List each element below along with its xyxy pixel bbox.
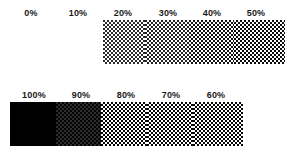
bottom-scale-label-row: 100%90%80%70%60% — [0, 89, 289, 101]
tick-label-bottom-70: 70% — [162, 89, 181, 101]
tick-label-bottom-100: 100% — [22, 89, 46, 101]
tick-label-top-0: 0% — [24, 7, 37, 19]
density-segment-top-20 — [103, 20, 145, 64]
density-segment-top-5 — [51, 20, 75, 64]
top-density-bar — [51, 20, 285, 64]
density-segment-bottom-80 — [101, 102, 147, 146]
halftone-density-chart: 0%10%20%30%40%50% 100%90%80%70%60% — [0, 0, 289, 153]
density-segment-bottom-60 — [193, 102, 243, 146]
tick-label-bottom-90: 90% — [72, 89, 91, 101]
density-segment-top-30 — [145, 20, 189, 64]
tick-label-top-50: 50% — [247, 7, 266, 19]
tick-label-bottom-80: 80% — [117, 89, 136, 101]
density-segment-top-10 — [75, 20, 103, 64]
density-segment-bottom-100 — [10, 102, 56, 146]
density-segment-bottom-70 — [147, 102, 193, 146]
tick-label-bottom-60: 60% — [207, 89, 226, 101]
density-segment-top-40 — [189, 20, 234, 64]
tick-label-top-30: 30% — [159, 7, 178, 19]
bottom-density-bar — [10, 102, 243, 146]
tick-label-top-20: 20% — [114, 7, 133, 19]
density-segment-top-50 — [234, 20, 285, 64]
tick-label-top-40: 40% — [203, 7, 222, 19]
top-scale-label-row: 0%10%20%30%40%50% — [0, 7, 289, 19]
tick-label-top-10: 10% — [69, 7, 88, 19]
density-segment-bottom-90 — [56, 102, 101, 146]
